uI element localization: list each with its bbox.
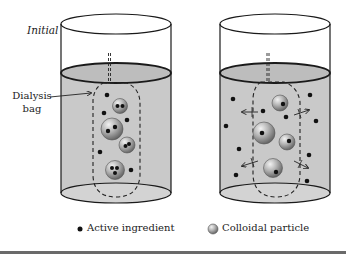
dialysis-bag-label: Dialysis bag (12, 89, 52, 115)
dialysis-diagram: Initial Dialysis bag Active ingredient C… (0, 0, 346, 254)
dialysis-bag-label-line1: Dialysis (12, 89, 52, 102)
beaker-release (220, 14, 330, 203)
legend-colloidal-particle-label: Colloidal particle (222, 222, 309, 233)
dialysis-bag-label-line2: bag (12, 102, 52, 115)
diagram-canvas (0, 0, 346, 254)
legend-active-ingredient-icon (78, 227, 83, 232)
legend-active-ingredient-label: Active ingredient (87, 222, 175, 233)
legend-colloidal-particle-icon (208, 224, 218, 234)
initial-label: Initial (27, 24, 58, 36)
beaker-initial (50, 14, 171, 203)
